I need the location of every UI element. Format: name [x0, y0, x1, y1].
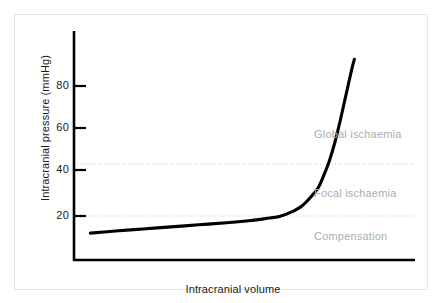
- chart-plot-area: [15, 15, 429, 291]
- x-axis-label: Intracranial volume: [88, 283, 378, 295]
- pressure-volume-curve: [90, 59, 354, 233]
- chart-figure: 80 60 40 20 Intracranial pressure (mmHg)…: [0, 0, 445, 303]
- y-axis-label: Intracranial pressure (mmHg): [39, 38, 51, 218]
- zone-label-compensation: Compensation: [314, 230, 387, 242]
- zone-label-focal-ischaemia: Focal ischaemia: [314, 187, 396, 199]
- zone-label-global-ischaemia: Global ischaemia: [314, 128, 402, 140]
- chart-frame: 80 60 40 20 Intracranial pressure (mmHg)…: [14, 14, 428, 290]
